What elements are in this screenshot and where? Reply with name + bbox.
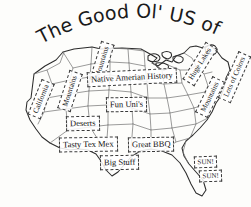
map-label-great-bbq: Great BBQ: [128, 137, 175, 153]
map-label-deserts: Deserts: [66, 116, 100, 132]
map-label-tasty-tex-mex: Tasty Tex Mex: [59, 136, 118, 152]
map-label-sun-1: SUN!: [194, 156, 218, 169]
map-label-big-stuff: Big Stuff: [100, 155, 140, 171]
map-label-sun-2: SUN!: [199, 170, 223, 183]
usa-doodle-map-page: The Good Ol' US of A CaliforniaMountains…: [0, 0, 251, 207]
map-label-fun-unis: Fun Uni's: [106, 97, 147, 113]
